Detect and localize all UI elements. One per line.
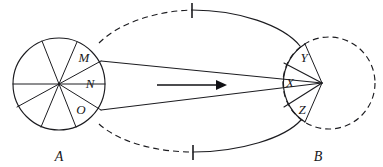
spoke-3 [42, 41, 59, 84]
source-circle-label: A [54, 149, 64, 164]
sector-label-n: N [85, 76, 96, 91]
spoke-6 [41, 84, 59, 127]
upper-envelope-dashed-segment [99, 10, 192, 43]
envelope-tick-marks [192, 3, 193, 160]
lower-envelope-dashed-segment [99, 124, 193, 152]
lower-envelope-solid-segment [193, 120, 301, 152]
target-circle-b [283, 37, 375, 129]
sector-label-z: Z [298, 102, 306, 117]
sector-label-o: O [76, 102, 86, 117]
upper-envelope-solid-segment [192, 10, 300, 46]
sector-label-y: Y [300, 50, 309, 65]
figure-container: M N O Y X Z A B [0, 0, 383, 167]
spoke-2 [59, 42, 77, 84]
direction-arrow [157, 80, 227, 90]
direction-arrow-head [216, 80, 227, 90]
target-circle-label: B [314, 149, 323, 164]
sector-label-x: X [285, 75, 295, 90]
projection-diagram: M N O Y X Z A B [0, 0, 383, 167]
spoke-7 [59, 84, 76, 127]
diagram-labels: M N O Y X Z A B [54, 50, 323, 164]
spoke-5 [17, 84, 59, 107]
sector-label-m: M [78, 50, 91, 65]
envelope-curves [99, 10, 301, 152]
